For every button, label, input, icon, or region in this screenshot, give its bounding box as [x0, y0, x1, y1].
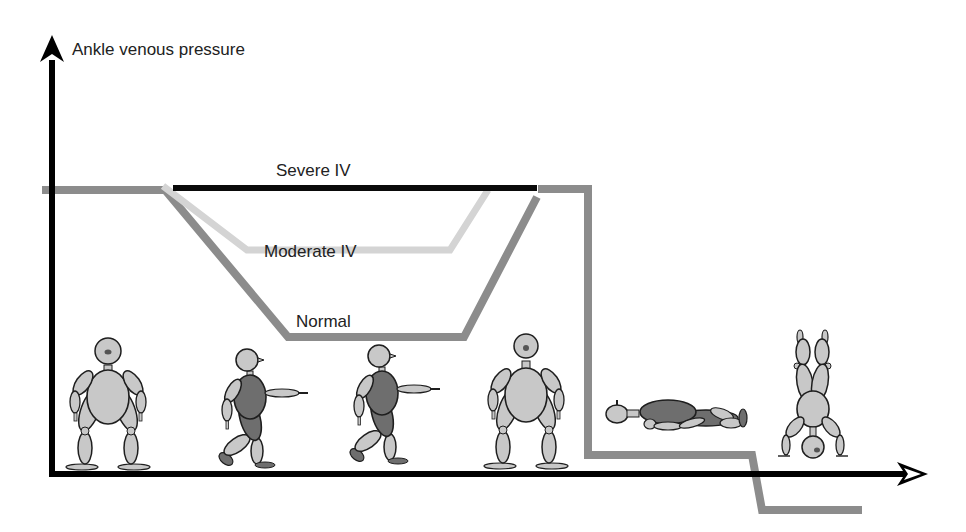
posture-pressure-line: [538, 189, 862, 510]
standing-figure-icon: [484, 334, 568, 469]
lying-figure-icon: [606, 400, 747, 430]
venous-pressure-diagram: Ankle venous pressure Severe IV Moderate…: [0, 0, 966, 532]
y-axis-arrow-icon: [40, 35, 64, 62]
severe-iv-label: Severe IV: [276, 162, 351, 179]
walking-figure-icon: [348, 345, 440, 464]
y-axis-label: Ankle venous pressure: [72, 41, 245, 58]
moderate-iv-label: Moderate IV: [264, 243, 357, 260]
walking-figure-icon: [217, 349, 308, 468]
handstand-figure-icon: [778, 330, 848, 458]
normal-curve: [165, 190, 537, 337]
standing-figure-icon: [66, 338, 150, 470]
normal-label: Normal: [296, 313, 351, 330]
diagram-canvas: [0, 0, 966, 532]
